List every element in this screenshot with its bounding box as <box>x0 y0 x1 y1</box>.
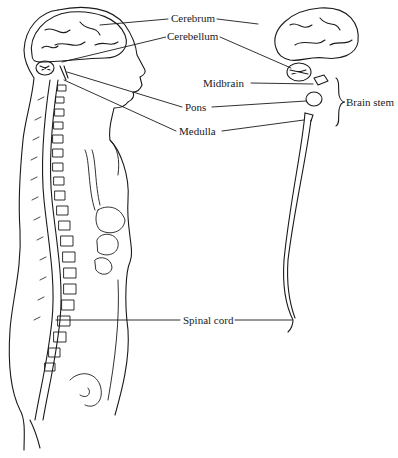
body-silhouette <box>9 7 145 450</box>
internal-organs <box>70 140 125 406</box>
isolated-cerebrum <box>275 8 358 61</box>
label-midbrain: Midbrain <box>202 77 245 89</box>
label-cerebrum: Cerebrum <box>170 12 216 24</box>
spine <box>31 80 76 420</box>
isolated-midbrain <box>314 75 328 85</box>
label-spinal-cord: Spinal cord <box>182 314 234 326</box>
label-pons: Pons <box>184 101 207 113</box>
isolated-cerebellum <box>287 63 311 81</box>
label-cerebellum: Cerebellum <box>166 30 219 42</box>
brain-stem-brace <box>336 78 345 126</box>
isolated-pons <box>306 92 322 106</box>
isolated-medulla-and-cord <box>284 113 313 332</box>
diagram-drawing <box>0 0 398 458</box>
label-brain-stem: Brain stem <box>345 96 395 108</box>
leader-lines <box>56 19 313 320</box>
head-brain <box>31 12 126 80</box>
label-medulla: Medulla <box>178 125 217 137</box>
